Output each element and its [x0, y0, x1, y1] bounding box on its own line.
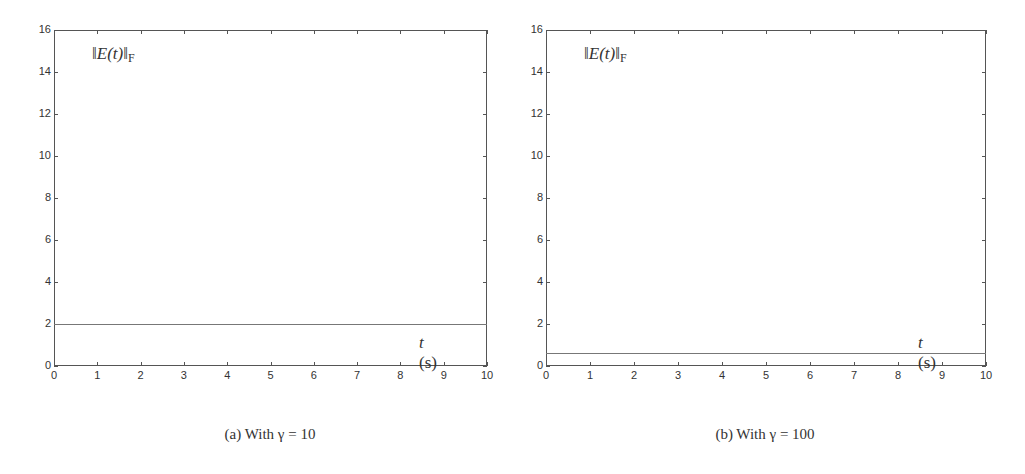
x-tick-label: 4: [224, 369, 230, 381]
x-tick: [357, 30, 358, 34]
x-tick-label: 5: [267, 369, 273, 381]
x-tick: [810, 362, 811, 366]
y-tick-label: 6: [31, 233, 51, 245]
x-tick-label: 0: [51, 369, 57, 381]
y-tick-label: 4: [31, 275, 51, 287]
x-tick: [590, 362, 591, 366]
x-tick-label: 6: [311, 369, 317, 381]
x-tick: [766, 30, 767, 34]
x-tick: [487, 362, 488, 366]
x-tick: [854, 30, 855, 34]
y-tick: [546, 72, 550, 73]
y-tick: [546, 366, 550, 367]
y-tick: [483, 30, 487, 31]
y-tick-label: 4: [523, 275, 543, 287]
y-tick: [54, 198, 58, 199]
x-tick-label: 10: [481, 369, 493, 381]
series-line: [54, 324, 487, 325]
x-tick: [227, 362, 228, 366]
y-tick: [546, 156, 550, 157]
y-tick-label: 14: [31, 65, 51, 77]
x-tick: [184, 362, 185, 366]
y-tick-label: 14: [523, 65, 543, 77]
y-tick: [982, 114, 986, 115]
x-tick: [810, 30, 811, 34]
x-tick: [678, 362, 679, 366]
x-tick: [898, 30, 899, 34]
y-tick: [54, 240, 58, 241]
y-tick-label: 0: [523, 359, 543, 371]
y-tick: [54, 30, 58, 31]
x-tick-label: 1: [94, 369, 100, 381]
x-tick: [942, 362, 943, 366]
x-tick: [444, 362, 445, 366]
y-tick: [483, 156, 487, 157]
x-tick-label: 4: [719, 369, 725, 381]
y-tick: [483, 198, 487, 199]
y-tick-label: 8: [523, 191, 543, 203]
x-tick: [400, 30, 401, 34]
x-tick: [722, 362, 723, 366]
x-tick: [271, 362, 272, 366]
x-tick: [97, 362, 98, 366]
x-tick-label: 7: [354, 369, 360, 381]
y-tick: [982, 282, 986, 283]
x-tick-label: 1: [587, 369, 593, 381]
x-tick-label: 2: [138, 369, 144, 381]
x-axis-label: t (s): [918, 333, 936, 373]
y-tick: [54, 282, 58, 283]
plot-area: [54, 30, 487, 366]
y-axis-label: ‖E(t)‖F: [92, 44, 135, 66]
y-tick: [982, 198, 986, 199]
x-tick: [854, 362, 855, 366]
x-tick: [357, 362, 358, 366]
y-tick: [546, 114, 550, 115]
x-tick-label: 9: [939, 369, 945, 381]
x-tick-label: 9: [441, 369, 447, 381]
x-tick: [590, 30, 591, 34]
x-tick-label: 2: [631, 369, 637, 381]
y-tick: [483, 114, 487, 115]
x-tick: [942, 30, 943, 34]
x-tick: [271, 30, 272, 34]
x-tick-label: 10: [980, 369, 992, 381]
y-tick: [483, 282, 487, 283]
y-tick-label: 6: [523, 233, 543, 245]
y-tick: [54, 366, 58, 367]
y-tick: [982, 156, 986, 157]
x-tick: [634, 30, 635, 34]
y-tick: [982, 366, 986, 367]
x-tick-label: 8: [397, 369, 403, 381]
y-tick-label: 2: [31, 317, 51, 329]
y-tick: [483, 72, 487, 73]
figure-caption: (b) With γ = 100: [715, 426, 814, 443]
x-tick: [444, 30, 445, 34]
x-tick-label: 8: [895, 369, 901, 381]
x-tick: [678, 30, 679, 34]
x-tick-label: 5: [763, 369, 769, 381]
y-tick: [54, 72, 58, 73]
y-tick: [483, 366, 487, 367]
x-tick-label: 0: [543, 369, 549, 381]
y-tick: [546, 282, 550, 283]
x-tick: [314, 30, 315, 34]
y-tick: [54, 114, 58, 115]
figure-caption: (a) With γ = 10: [225, 426, 316, 443]
y-tick: [546, 198, 550, 199]
x-tick-label: 6: [807, 369, 813, 381]
x-tick: [141, 362, 142, 366]
x-tick: [986, 30, 987, 34]
x-tick: [184, 30, 185, 34]
y-tick: [546, 240, 550, 241]
x-tick: [227, 30, 228, 34]
plot-area: [546, 30, 986, 366]
y-tick: [483, 240, 487, 241]
y-tick-label: 10: [31, 149, 51, 161]
y-tick: [54, 156, 58, 157]
x-tick: [898, 362, 899, 366]
y-tick-label: 0: [31, 359, 51, 371]
y-tick-label: 12: [523, 107, 543, 119]
y-tick: [546, 324, 550, 325]
x-tick: [722, 30, 723, 34]
y-tick: [982, 30, 986, 31]
